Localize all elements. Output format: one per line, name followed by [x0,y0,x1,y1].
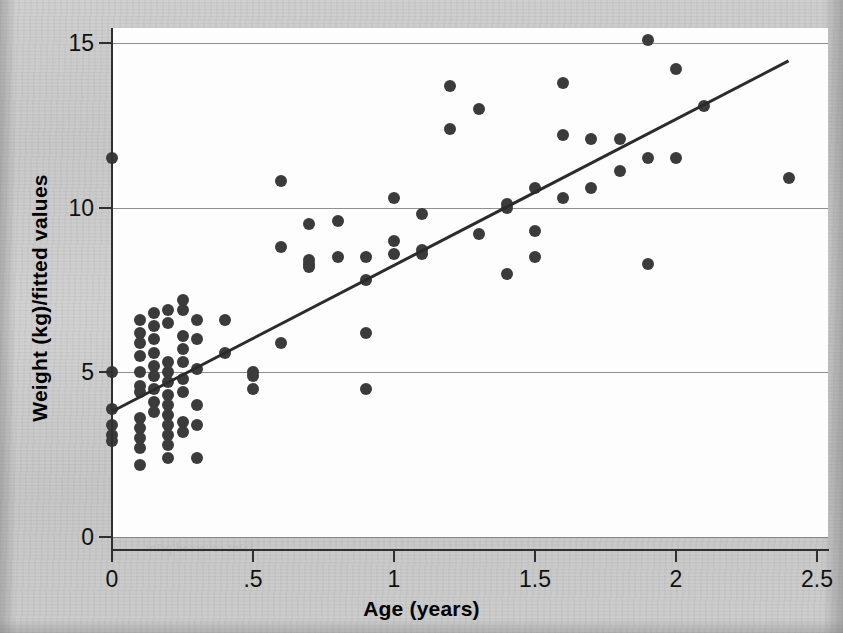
y-axis-title: Weight (kg)/fitted values [28,48,52,548]
y-tick-0 [99,536,112,538]
scatter-point [134,337,146,349]
y-tick-5 [99,371,112,373]
scatter-point [332,215,344,227]
scatter-point [557,192,569,204]
scatter-point [134,314,146,326]
scatter-point [501,268,513,280]
scatter-point [134,442,146,454]
scatter-point [360,383,372,395]
scatter-point [614,165,626,177]
y-axis-line [111,28,113,550]
scatter-point [303,218,315,230]
scatter-point [670,63,682,75]
gridline-y-0 [112,537,828,538]
scatter-point [177,343,189,355]
page-shadow-left [0,0,16,633]
y-tick-10 [99,207,112,209]
scatter-point [247,370,259,382]
page-shadow-bottom [0,619,843,633]
y-tick-15 [99,42,112,44]
scatter-point [529,251,541,263]
scatter-point [585,182,597,194]
scatter-point [388,248,400,260]
scatter-point [148,333,160,345]
scatter-point [332,251,344,263]
scatter-point [360,251,372,263]
scatter-point [247,383,259,395]
scatter-point [148,406,160,418]
scatter-point [473,228,485,240]
scatter-point [177,330,189,342]
scatter-point [177,356,189,368]
scatter-point [177,386,189,398]
scatter-point [191,419,203,431]
scatter-point [388,192,400,204]
scatter-point [275,337,287,349]
x-tick-0 [111,551,113,562]
scatter-point [473,103,485,115]
scatter-point [191,333,203,345]
gridline-y-15 [112,43,828,44]
x-tick-label-1.5: 1.5 [519,566,551,593]
x-tick-2 [675,551,677,562]
scatter-point [642,34,654,46]
x-tick-label-2: 2 [670,566,683,593]
scatter-point [557,129,569,141]
scatter-point [783,172,795,184]
scatter-point [416,208,428,220]
scatter-point [134,350,146,362]
scatter-point [191,314,203,326]
x-tick-label-2.5: 2.5 [801,566,833,593]
x-axis-title: Age (years) [0,597,843,621]
x-tick-label-1: 1 [388,566,401,593]
x-tick-1.5 [534,551,536,562]
figure-scanned-chart: scanned page show-through textfaint reve… [0,0,843,633]
scatter-point [134,366,146,378]
scatter-point [177,304,189,316]
scatter-point [219,314,231,326]
scatter-point [388,235,400,247]
scatter-point [642,152,654,164]
scatter-point [303,261,315,273]
x-axis-line [111,549,829,551]
scatter-point [557,77,569,89]
scatter-point [585,133,597,145]
scatter-point [275,175,287,187]
scatter-point [444,123,456,135]
scatter-point [177,426,189,438]
scatter-point [642,258,654,270]
gridline-y-5 [112,372,828,373]
scatter-point [148,347,160,359]
scatter-point [148,307,160,319]
x-tick-1 [393,551,395,562]
plot-area [112,28,828,537]
scatter-point [162,304,174,316]
scatter-point [529,225,541,237]
x-tick-label-.5: .5 [243,566,262,593]
scatter-point [360,327,372,339]
scatter-point [134,459,146,471]
x-tick-2.5 [816,551,818,562]
scatter-point [275,241,287,253]
scatter-point [148,370,160,382]
gridline-y-10 [112,208,828,209]
scatter-point [191,452,203,464]
scatter-point [162,317,174,329]
x-tick-label-0: 0 [106,566,119,593]
scatter-point [162,439,174,451]
scatter-point [614,133,626,145]
scatter-point [162,452,174,464]
scatter-point [148,320,160,332]
scatter-point [670,152,682,164]
scatter-point [191,399,203,411]
scatter-point [444,80,456,92]
x-tick-.5 [252,551,254,562]
